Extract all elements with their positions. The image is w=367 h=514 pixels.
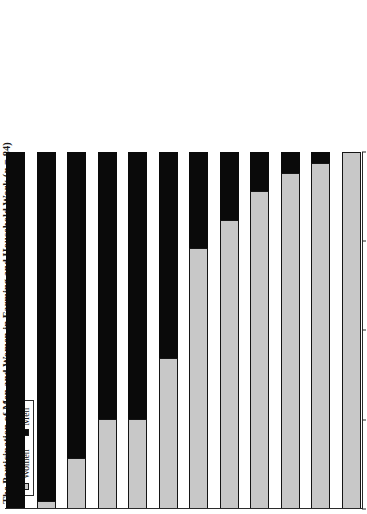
bar-segment-women — [128, 419, 147, 508]
bar-segment-men — [128, 152, 147, 419]
bar-segment-men — [220, 152, 239, 220]
plot-area — [5, 152, 362, 509]
bar-group — [5, 152, 362, 508]
bar-segment-men — [189, 152, 208, 248]
bar-segment-men — [281, 152, 300, 173]
value-axis-ticks: 0255075100 — [362, 152, 367, 509]
bar-segment-men — [250, 152, 269, 191]
bar-segment-women — [220, 220, 239, 508]
category-axis-line — [5, 508, 362, 509]
bar-segment-women — [159, 358, 178, 508]
axis-tick — [362, 152, 366, 153]
bar-row — [281, 152, 300, 508]
axis-tick — [362, 330, 366, 331]
bar-segment-women — [342, 152, 361, 508]
bar-segment-women — [311, 163, 330, 508]
bar-row — [342, 152, 361, 508]
bar-segment-men — [67, 152, 86, 458]
bar-segment-women — [281, 173, 300, 508]
bar-row — [98, 152, 117, 508]
bar-row — [67, 152, 86, 508]
bar-row — [220, 152, 239, 508]
axis-tick — [362, 241, 366, 242]
bar-row — [189, 152, 208, 508]
bar-segment-women — [37, 501, 56, 508]
axis-tick — [362, 509, 366, 510]
figure-page: The Participation of Men and Women in Fa… — [0, 0, 367, 514]
bar-segment-women — [250, 191, 269, 508]
bar-segment-women — [98, 419, 117, 508]
bar-segment-women — [189, 248, 208, 508]
bar-row — [311, 152, 330, 508]
chart-figure: The Participation of Men and Women in Fa… — [0, 0, 367, 514]
bar-segment-men — [311, 152, 330, 163]
bar-segment-women — [67, 458, 86, 508]
bar-row — [159, 152, 178, 508]
bar-segment-men — [6, 152, 25, 508]
axis-tick — [362, 419, 366, 420]
bar-row — [128, 152, 147, 508]
bar-row — [250, 152, 269, 508]
bar-segment-men — [37, 152, 56, 501]
bar-row — [37, 152, 56, 508]
bar-segment-men — [98, 152, 117, 419]
bar-segment-men — [159, 152, 178, 358]
bar-row — [6, 152, 25, 508]
